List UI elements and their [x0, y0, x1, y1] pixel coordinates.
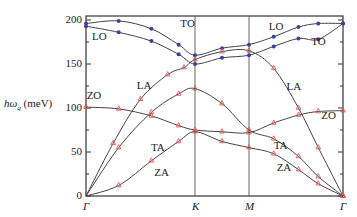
plot-frame	[86, 16, 343, 196]
data-point-blue	[117, 19, 121, 23]
x-tick-k: K	[192, 201, 199, 212]
data-point-red	[165, 72, 170, 76]
data-point-blue	[296, 25, 300, 29]
branch-label-la: LA	[137, 80, 152, 91]
y-tick-50: 50	[58, 146, 82, 157]
data-point-red	[220, 138, 225, 142]
data-point-red	[316, 109, 321, 113]
data-point-blue	[193, 62, 197, 66]
branch-label-lo: LO	[92, 31, 107, 42]
branch-curve-ta	[86, 88, 343, 196]
branch-curve-to	[86, 21, 343, 56]
data-point-blue	[117, 30, 121, 34]
data-point-blue	[177, 43, 181, 47]
data-point-red	[176, 123, 181, 127]
data-point-blue	[220, 56, 224, 60]
data-point-red	[316, 181, 321, 185]
branch-label-lo: LO	[269, 21, 284, 32]
data-point-blue	[177, 52, 181, 56]
data-point-red	[296, 112, 301, 116]
branch-label-za: ZA	[154, 167, 169, 178]
data-point-blue	[341, 22, 345, 26]
data-point-blue	[316, 22, 320, 26]
data-point-blue	[84, 24, 88, 28]
y-axis-label-unit: (meV)	[21, 97, 52, 109]
data-point-red	[182, 65, 187, 69]
data-point-red	[176, 138, 181, 142]
data-point-blue	[247, 43, 251, 47]
branch-label-ta: TA	[151, 142, 165, 153]
branch-label-la: LA	[287, 81, 302, 92]
x-tick-gamma-left: Γ	[83, 201, 89, 212]
branch-label-ta: TA	[274, 140, 288, 151]
branch-label-zo: ZO	[321, 110, 336, 121]
plot-area	[0, 0, 357, 217]
phonon-dispersion-chart	[0, 0, 357, 217]
data-point-blue	[296, 36, 300, 40]
data-point-blue	[247, 53, 251, 57]
y-tick-0: 0	[58, 190, 82, 201]
y-tick-200: 200	[58, 14, 82, 25]
y-axis-label-main: hω	[4, 97, 17, 109]
data-point-blue	[272, 44, 276, 48]
data-point-red	[296, 167, 301, 171]
y-axis-label: hωq (meV)	[4, 98, 52, 112]
branch-label-za: ZA	[277, 162, 292, 173]
branch-label-to: TO	[311, 36, 325, 47]
branch-curve-lo	[86, 24, 343, 65]
y-tick-150: 150	[58, 58, 82, 69]
data-point-red	[271, 151, 276, 155]
x-tick-gamma-right: Γ	[340, 201, 346, 212]
data-point-red	[220, 129, 225, 133]
data-point-red	[176, 91, 181, 95]
data-point-red	[271, 120, 276, 124]
data-point-red	[149, 158, 154, 162]
data-point-red	[116, 182, 121, 186]
data-point-blue	[149, 39, 153, 43]
branch-label-zo: ZO	[87, 90, 102, 101]
branch-label-to: TO	[180, 18, 194, 29]
data-point-blue	[272, 35, 276, 39]
data-point-blue	[149, 27, 153, 31]
x-tick-m: M	[245, 201, 254, 212]
y-tick-100: 100	[58, 102, 82, 113]
data-point-red	[220, 101, 225, 105]
data-point-red	[116, 106, 121, 110]
branch-curve-za	[86, 132, 343, 196]
